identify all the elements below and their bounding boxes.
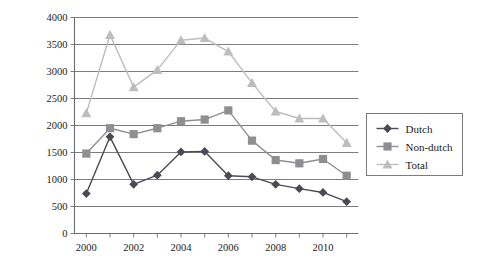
y-axis: 05001000150020002500300035004000: [47, 12, 75, 239]
series-dutch: [82, 132, 351, 206]
series-non-dutch-marker-1: [106, 124, 114, 132]
series-dutch-marker-0: [82, 189, 91, 198]
y-tick-label-3000: 3000: [47, 66, 68, 77]
legend-label-0: Dutch: [406, 123, 433, 135]
x-tick-label-2002: 2002: [123, 242, 144, 253]
series-non-dutch-marker-3: [153, 124, 161, 132]
series-non-dutch-marker-5: [201, 115, 209, 123]
x-tick-label-2004: 2004: [171, 242, 193, 253]
series-non-dutch: [82, 106, 351, 180]
y-tick-label-4000: 4000: [47, 12, 68, 23]
series-dutch-marker-10: [319, 188, 328, 197]
series-non-dutch-marker-7: [248, 137, 256, 145]
series-non-dutch-marker-8: [272, 156, 280, 164]
series-non-dutch-marker-4: [177, 117, 185, 125]
y-tick-label-500: 500: [52, 201, 68, 212]
legend: DutchNon-dutchTotal: [367, 114, 463, 176]
line-chart: 0500100015002000250030003500400020002002…: [0, 0, 479, 279]
series-line-non-dutch: [86, 110, 346, 175]
series-line-total: [86, 35, 346, 143]
y-tick-label-2500: 2500: [47, 93, 68, 104]
series-non-dutch-marker-6: [224, 106, 232, 114]
y-tick-label-2000: 2000: [47, 120, 68, 131]
series-total-marker-2: [129, 82, 139, 91]
series-non-dutch-marker-11: [343, 172, 351, 180]
series-non-dutch-marker-0: [82, 149, 90, 157]
series-non-dutch-marker-9: [295, 159, 303, 167]
chart-canvas: 0500100015002000250030003500400020002002…: [0, 0, 479, 279]
series-total-marker-6: [223, 47, 233, 56]
series-dutch-marker-9: [295, 184, 304, 193]
y-tick-label-3500: 3500: [47, 39, 68, 50]
series-non-dutch-marker-2: [130, 130, 138, 138]
x-tick-label-2008: 2008: [265, 242, 286, 253]
series-total-marker-1: [105, 30, 115, 39]
legend-swatch-1-marker-0: [383, 142, 391, 150]
x-tick-label-2010: 2010: [313, 242, 334, 253]
series-total-marker-5: [200, 33, 210, 42]
series-non-dutch-marker-10: [319, 155, 327, 163]
legend-label-1: Non-dutch: [406, 141, 454, 153]
y-tick-label-1500: 1500: [47, 147, 68, 158]
series-total-marker-0: [81, 108, 91, 117]
legend-label-2: Total: [406, 159, 428, 171]
series-total: [81, 30, 351, 147]
y-tick-label-0: 0: [62, 228, 67, 239]
series-dutch-marker-1: [106, 132, 115, 141]
series-dutch-marker-2: [129, 180, 138, 189]
y-tick-label-1000: 1000: [47, 174, 68, 185]
series-dutch-marker-11: [342, 197, 351, 206]
x-tick-label-2006: 2006: [218, 242, 239, 253]
series-dutch-marker-8: [271, 180, 280, 189]
x-axis: 200020022004200620082010: [76, 234, 347, 253]
x-tick-label-2000: 2000: [76, 242, 97, 253]
series-line-dutch: [86, 137, 346, 202]
